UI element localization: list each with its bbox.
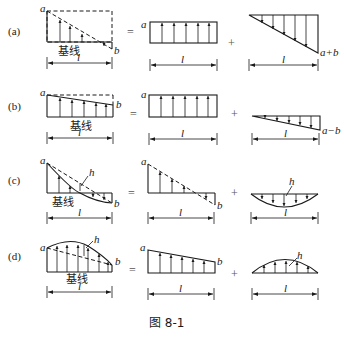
svg-text:l: l (282, 53, 285, 65)
label-h: h (289, 175, 295, 187)
label-b: b (115, 255, 121, 267)
dashed-reference-box (47, 11, 112, 42)
middle-diagram: a l (141, 18, 217, 71)
right-diagram: h l (252, 249, 318, 300)
left-diagram: a b 基线 l (40, 2, 120, 69)
label-b: b (217, 199, 223, 211)
svg-text:l: l (78, 126, 81, 138)
uniform-block (150, 22, 217, 43)
length-dimension: l (150, 53, 217, 71)
length-dimension: l (251, 206, 318, 224)
svg-text:l: l (179, 206, 182, 218)
label-b: b (114, 44, 120, 56)
label-h: h (89, 166, 95, 178)
row-label: (a) (8, 25, 21, 38)
row-label: (d) (8, 250, 21, 263)
middle-diagram: a l (141, 88, 217, 145)
label-b: b (116, 98, 122, 110)
length-dimension: l (252, 127, 319, 145)
right-diagram: a−b l (252, 116, 341, 145)
length-dimension: l (47, 126, 113, 144)
label-a-plus-b: a+b (320, 46, 339, 58)
label-a: a (40, 241, 46, 253)
influence-line-decomposition-figure: (a) a b 基线 l = (0, 0, 344, 338)
baseline-label: 基线 (66, 272, 88, 286)
length-dimension: l (148, 282, 214, 300)
label-b: b (114, 197, 120, 209)
left-diagram: a b 基线 l (40, 86, 122, 144)
row-c: (c) h a b 基线 l = (8, 154, 318, 224)
row-a: (a) a b 基线 l = (8, 2, 339, 71)
row-label: (b) (8, 100, 21, 113)
equals-sign: = (128, 186, 135, 200)
length-dimension: l (252, 282, 318, 300)
plus-sign: + (231, 267, 238, 281)
label-a: a (40, 154, 46, 166)
row-b: (b) a b 基线 l = (8, 86, 341, 145)
equals-sign: = (129, 263, 136, 277)
equals-sign: = (130, 107, 137, 121)
label-a: a (40, 86, 46, 98)
triangle-block (249, 15, 318, 53)
left-diagram: h a b 基线 l (40, 154, 120, 224)
middle-diagram: a b l (140, 241, 223, 300)
linear-load-line (148, 164, 215, 205)
label-a: a (141, 155, 147, 167)
trapezoid-block (148, 250, 215, 273)
plus-sign: + (231, 186, 238, 200)
svg-text:l: l (181, 53, 184, 65)
svg-text:l: l (284, 282, 287, 294)
label-h: h (297, 249, 303, 261)
label-h: h (94, 233, 100, 245)
label-a: a (40, 2, 46, 14)
svg-text:l: l (179, 282, 182, 294)
length-dimension: l (47, 51, 112, 69)
right-diagram: h l (251, 175, 318, 224)
length-dimension: l (148, 206, 214, 224)
equals-sign: = (127, 25, 134, 39)
uniform-block (149, 95, 217, 117)
plus-sign: + (228, 36, 235, 50)
load-line (47, 11, 112, 49)
label-a-minus-b: a−b (322, 124, 341, 136)
svg-text:l: l (78, 206, 81, 218)
label-b: b (217, 255, 223, 267)
svg-text:l: l (77, 51, 80, 63)
label-a: a (141, 18, 147, 30)
figure-caption: 图 8-1 (149, 316, 184, 330)
left-diagram: h a b 基线 l (40, 233, 121, 298)
load-line (47, 95, 113, 105)
length-dimension: l (47, 280, 112, 298)
length-dimension: l (249, 53, 318, 71)
middle-diagram: a b l (141, 155, 223, 224)
label-a: a (141, 88, 147, 100)
right-diagram: a+b l (249, 15, 339, 71)
baseline-label: 基线 (52, 195, 74, 209)
row-label: (c) (8, 174, 21, 187)
plus-sign: + (231, 107, 238, 121)
length-dimension: l (149, 127, 217, 145)
row-d: (d) h a b 基线 l = (8, 233, 318, 300)
svg-text:l: l (284, 206, 287, 218)
svg-text:l: l (284, 127, 287, 139)
svg-text:l: l (78, 280, 81, 292)
svg-text:l: l (181, 127, 184, 139)
label-a: a (140, 241, 146, 253)
